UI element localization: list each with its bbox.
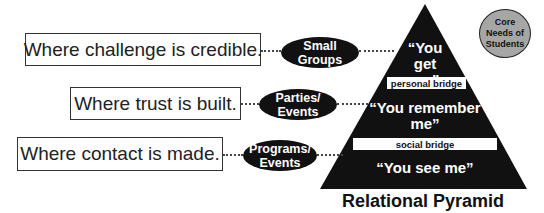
connector-line <box>317 154 343 156</box>
venue-oval-small-groups: Small Groups <box>281 37 359 68</box>
statement-text: Where challenge is credible. <box>24 39 263 61</box>
bridge-label: personal bridge <box>391 78 462 89</box>
level-text: “You see me” <box>376 159 473 176</box>
bridge-label: social bridge <box>396 139 455 150</box>
connector-line <box>261 50 281 52</box>
venue-oval-programs-events: Programs/ Events <box>243 140 317 171</box>
statement-text: Where contact is made. <box>20 143 220 165</box>
pyramid-level-middle: “You remember me” <box>365 100 485 132</box>
core-needs-text: Core Needs of Students <box>483 17 527 50</box>
core-needs-badge: Core Needs of Students <box>479 9 531 58</box>
social-bridge-band: social bridge <box>353 138 497 150</box>
personal-bridge-band: personal bridge <box>387 77 466 89</box>
pyramid-level-bottom: “You see me” <box>340 160 510 176</box>
venue-oval-parties-events: Parties/ Events <box>259 89 337 120</box>
statement-box-challenge: Where challenge is credible. <box>25 33 261 66</box>
statement-box-contact: Where contact is made. <box>17 137 223 171</box>
statement-text: Where trust is built. <box>74 93 237 115</box>
connector-line <box>241 103 259 105</box>
venue-label: Parties/ Events <box>273 91 323 119</box>
statement-box-trust: Where trust is built. <box>70 87 241 120</box>
venue-label: Programs/ Events <box>249 142 311 170</box>
connector-line <box>223 154 243 156</box>
diagram-title: Relational Pyramid <box>323 191 523 212</box>
level-text: “You remember me” <box>368 100 483 132</box>
venue-label: Small Groups <box>296 39 344 67</box>
